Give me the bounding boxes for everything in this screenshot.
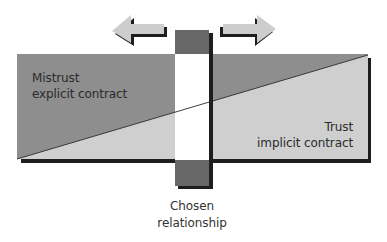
chosen-relationship-slider bbox=[175, 30, 213, 189]
slider-top-block bbox=[175, 30, 209, 55]
mistrust-label-line2: explicit contract bbox=[32, 86, 127, 102]
arrow-left-icon bbox=[112, 15, 167, 46]
slider-bottom-block bbox=[175, 160, 209, 186]
trust-label-line2: implicit contract bbox=[257, 135, 353, 151]
chosen-label-line1: Chosen bbox=[142, 198, 242, 215]
trust-label-line1: Trust bbox=[257, 119, 353, 135]
arrow-left-fill bbox=[112, 15, 164, 43]
arrow-right-fill bbox=[223, 15, 276, 43]
trust-label: Trust implicit contract bbox=[257, 119, 353, 151]
chosen-label-line2: relationship bbox=[142, 215, 242, 232]
mistrust-label: Mistrust explicit contract bbox=[32, 70, 127, 102]
chosen-relationship-label: Chosen relationship bbox=[142, 198, 242, 232]
mistrust-label-line1: Mistrust bbox=[32, 70, 127, 86]
arrow-right-icon bbox=[220, 15, 276, 46]
